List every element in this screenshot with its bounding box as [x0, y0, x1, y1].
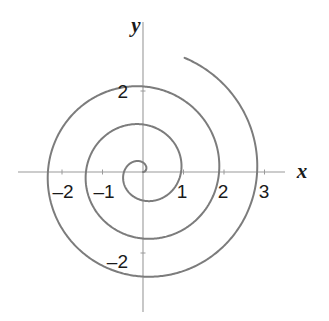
y-tick-label-pos2: 2 [117, 81, 128, 102]
y-tick-label-neg2: –2 [107, 251, 128, 272]
x-tick-label-neg1: –1 [93, 181, 114, 202]
x-tick-label-pos1: 1 [177, 181, 188, 202]
spiral-curve [48, 58, 258, 277]
spiral-plot-figure: y x –2 –1 1 2 3 2 –2 [0, 0, 329, 321]
x-tick-label-pos3: 3 [259, 181, 270, 202]
x-tick-label-pos2: 2 [218, 181, 229, 202]
x-axis-label: x [296, 159, 308, 183]
y-axis-label: y [128, 13, 141, 37]
x-tick-label-neg2: –2 [52, 181, 73, 202]
axes-group [18, 22, 285, 312]
plot-canvas: y x –2 –1 1 2 3 2 –2 [0, 0, 329, 321]
